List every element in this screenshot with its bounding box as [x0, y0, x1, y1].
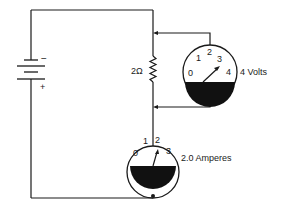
junction-dot-icon	[151, 194, 155, 198]
resistor-label: 2Ω	[131, 66, 143, 76]
voltmeter-dark-panel	[185, 82, 235, 107]
voltmeter-tick-0: 0	[188, 68, 193, 78]
voltmeter: 0 1 2 3 4	[183, 45, 237, 107]
ammeter-reading-label: 2.0 Amperes	[181, 153, 232, 163]
voltmeter-tick-3: 3	[217, 54, 222, 64]
ammeter-tick-1: 1	[143, 136, 148, 146]
resistor-icon	[150, 56, 156, 82]
battery-minus-label: −	[41, 53, 47, 64]
voltmeter-reading-label: 4 Volts	[240, 67, 268, 77]
arrowhead-top-icon	[153, 31, 158, 35]
voltmeter-tick-2: 2	[207, 47, 212, 57]
battery-plus-label: +	[40, 82, 45, 92]
wires	[31, 10, 210, 198]
ammeter-tick-0: 0	[133, 148, 138, 158]
voltmeter-top-lead	[156, 33, 210, 46]
ammeter-tick-3: 3	[166, 146, 171, 156]
voltmeter-tick-4: 4	[226, 67, 231, 77]
voltmeter-tick-1: 1	[196, 53, 201, 63]
circuit-diagram: − + 2Ω 0 1 2 3 4 4 Volts 0 1 2 3 2.0 Amp…	[0, 0, 281, 216]
arrowhead-bottom-icon	[153, 105, 158, 109]
ammeter-tick-2: 2	[155, 135, 160, 145]
